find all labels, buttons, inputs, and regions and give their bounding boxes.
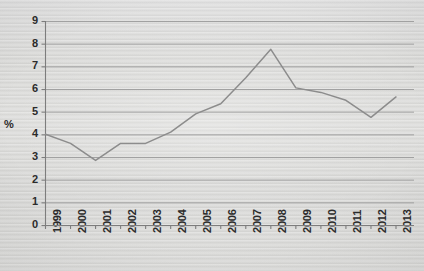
y-tick-group	[42, 22, 46, 226]
axis-group	[46, 21, 415, 226]
data-series-line	[46, 49, 397, 160]
gridline-group	[46, 22, 415, 203]
line-chart	[0, 0, 424, 271]
